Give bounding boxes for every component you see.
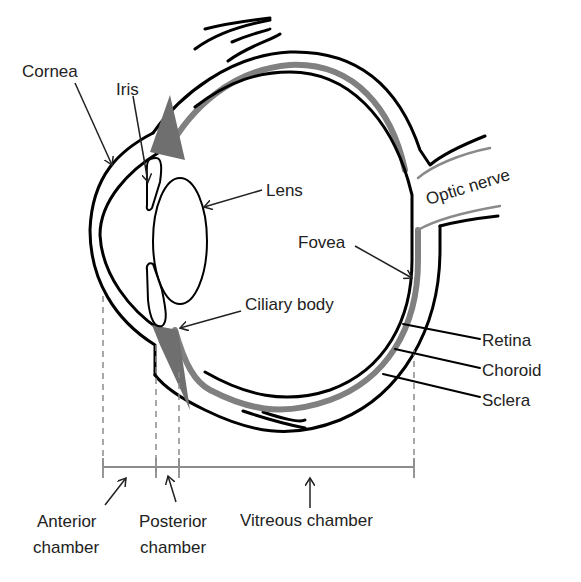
- label-anterior-chamber-1: Anterior: [37, 512, 97, 531]
- label-vitreous-chamber: Vitreous chamber: [240, 511, 373, 530]
- label-lens: Lens: [266, 181, 303, 200]
- sclera-outline: [90, 18, 498, 431]
- label-anterior-chamber-2: chamber: [33, 538, 99, 557]
- label-retina: Retina: [482, 331, 532, 350]
- label-optic-nerve: Optic nerve: [424, 165, 513, 209]
- chamber-measurement-bar: [103, 458, 414, 478]
- label-ciliary-body: Ciliary body: [245, 295, 334, 314]
- label-posterior-chamber-1: Posterior: [139, 512, 207, 531]
- label-cornea: Cornea: [22, 62, 78, 81]
- label-posterior-chamber-2: chamber: [140, 538, 206, 557]
- label-sclera: Sclera: [482, 391, 531, 410]
- label-choroid: Choroid: [482, 361, 542, 380]
- label-iris: Iris: [116, 80, 139, 99]
- eye-anatomy-diagram: Cornea Iris Lens Optic nerve Fovea Cilia…: [0, 0, 581, 582]
- label-fovea: Fovea: [298, 233, 346, 252]
